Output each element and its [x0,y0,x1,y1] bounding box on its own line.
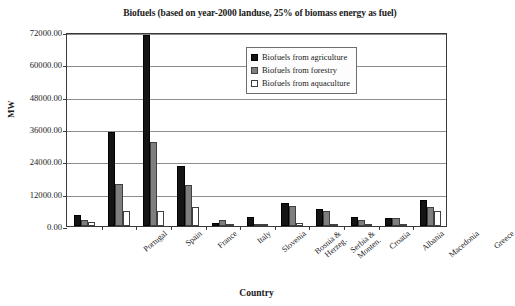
x-tick-label: Portugal [110,229,169,281]
legend-item: Biofuels from forestry [251,64,350,77]
bar [81,220,88,226]
bar [177,166,184,226]
legend-label: Biofuels from agriculture [262,53,347,62]
bar [88,222,95,226]
bar [150,142,157,226]
legend-label: Biofuels from aquaculture [262,79,350,88]
bar [254,224,261,226]
bar-group [379,34,414,226]
bar [212,223,219,226]
bar-group [206,34,241,226]
bar [115,184,122,226]
bar [247,217,254,226]
chart-title: Biofuels (based on year-2000 landuse, 25… [70,8,450,18]
bar [323,211,330,226]
chart-legend: Biofuels from agricultureBiofuels from f… [246,47,357,94]
bar [358,220,365,226]
bar [185,185,192,226]
bar-group [413,34,448,226]
y-tick-label: 0.00 [10,223,62,232]
bar [400,224,407,226]
bar [296,223,303,226]
legend-item: Biofuels from agriculture [251,51,350,64]
bar [281,203,288,226]
y-tick-label: 72000.00 [10,29,62,38]
bar [108,132,115,226]
bar [330,224,337,226]
bar [427,207,434,226]
bar-group [136,34,171,226]
legend-item: Biofuels from aquaculture [251,77,350,90]
bar [392,218,399,226]
bar [289,206,296,226]
bar [316,209,323,226]
y-tick-label: 24000.00 [10,158,62,167]
y-tick-label: 60000.00 [10,61,62,70]
y-tick-label: 12000.00 [10,191,62,200]
bar [434,211,441,226]
legend-swatch-icon [251,67,258,74]
bar-group [102,34,137,226]
bar [385,218,392,226]
bar [420,200,427,226]
bar [74,215,81,226]
bar-group [67,34,102,226]
legend-swatch-icon [251,54,258,61]
x-axis-title: Country [66,288,447,298]
bar [219,220,226,226]
bar [192,207,199,226]
bar [143,35,150,226]
bar [123,211,130,226]
bar [226,224,233,226]
legend-swatch-icon [251,80,258,87]
legend-label: Biofuels from forestry [262,66,337,75]
bar-group [171,34,206,226]
bar [351,217,358,226]
x-axis-tick-labels: PortugalSpainFranceItalySloveniaBosnia &… [66,229,447,289]
bar [261,224,268,226]
y-tick-label: 36000.00 [10,126,62,135]
y-tick-label: 48000.00 [10,94,62,103]
bar [157,211,164,226]
bar [365,224,372,226]
y-axis-tick-labels: 72000.0060000.0048000.0036000.0024000.00… [0,0,62,306]
